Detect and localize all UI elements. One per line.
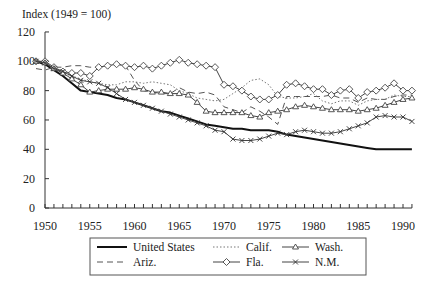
diamond-marker	[131, 64, 138, 71]
diamond-marker	[238, 87, 245, 94]
series-group	[33, 56, 416, 149]
legend-label: N.M.	[315, 256, 339, 268]
line-chart: Index (1949 = 100) 020406080100120195019…	[0, 0, 428, 288]
diamond-marker	[256, 96, 263, 103]
legend-label: United States	[133, 241, 195, 253]
x-marker	[266, 134, 271, 139]
y-tick-label: 60	[23, 113, 35, 127]
x-tick-label: 1975	[257, 219, 281, 233]
x-tick-label: 1990	[391, 219, 415, 233]
x-tick-label: 1970	[212, 219, 236, 233]
diamond-marker	[373, 87, 380, 94]
triangle-marker	[114, 86, 120, 91]
triangle-marker	[132, 85, 138, 90]
series-line	[36, 61, 412, 117]
diamond-marker	[247, 93, 254, 100]
diamond-marker	[229, 83, 236, 90]
triangle-marker	[409, 95, 415, 100]
diamond-marker	[310, 86, 317, 93]
series-fla	[33, 56, 416, 103]
diamond-marker	[176, 56, 183, 63]
legend-item: Calif.	[213, 241, 272, 253]
x-tick-label: 1985	[346, 219, 370, 233]
x-tick-label: 1965	[167, 219, 191, 233]
legend-item: N.M.	[282, 256, 339, 268]
legend-item: Ariz.	[97, 256, 156, 268]
diamond-marker	[212, 64, 219, 71]
diamond-marker	[149, 65, 156, 72]
diamond-marker	[167, 59, 174, 66]
diamond-marker	[203, 62, 210, 69]
x-marker	[114, 91, 119, 96]
diamond-marker	[185, 59, 192, 66]
diamond-marker	[382, 84, 389, 91]
diamond-marker	[223, 259, 230, 266]
x-marker	[409, 119, 414, 124]
legend-item: United States	[97, 241, 195, 253]
x-tick-label: 1955	[78, 219, 102, 233]
legend-item: Fla.	[213, 256, 264, 268]
legend-label: Calif.	[246, 241, 272, 253]
legend-item: Wash.	[282, 241, 343, 253]
triangle-marker	[302, 102, 308, 107]
x-marker	[347, 126, 352, 131]
diamond-marker	[104, 62, 111, 69]
diamond-marker	[364, 89, 371, 96]
triangle-marker	[176, 91, 182, 96]
legend: United StatesCalif.Wash.Ariz.Fla.N.M.	[90, 238, 366, 275]
diamond-marker	[328, 92, 335, 99]
x-marker	[365, 120, 370, 125]
diamond-marker	[77, 70, 84, 77]
diamond-marker	[140, 62, 147, 69]
y-tick-label: 0	[29, 201, 35, 215]
x-tick-label: 1980	[302, 219, 326, 233]
diamond-marker	[337, 87, 344, 94]
diamond-marker	[122, 62, 129, 69]
legend-label: Ariz.	[133, 256, 156, 268]
y-tick-label: 120	[17, 25, 35, 39]
y-axis-label: Index (1949 = 100)	[22, 8, 111, 21]
diamond-marker	[292, 80, 299, 87]
x-marker	[356, 123, 361, 128]
legend-label: Fla.	[246, 256, 264, 268]
diamond-marker	[408, 87, 415, 94]
diamond-marker	[194, 61, 201, 68]
diamond-marker	[301, 83, 308, 90]
y-tick-label: 80	[23, 84, 35, 98]
x-tick-label: 1960	[123, 219, 147, 233]
diamond-marker	[265, 96, 272, 103]
y-tick-label: 40	[23, 142, 35, 156]
diamond-marker	[221, 81, 228, 88]
y-tick-label: 20	[23, 172, 35, 186]
diamond-marker	[319, 86, 326, 93]
legend-label: Wash.	[315, 241, 343, 253]
x-tick-label: 1950	[33, 219, 57, 233]
diamond-marker	[158, 62, 165, 69]
diamond-marker	[113, 61, 120, 68]
